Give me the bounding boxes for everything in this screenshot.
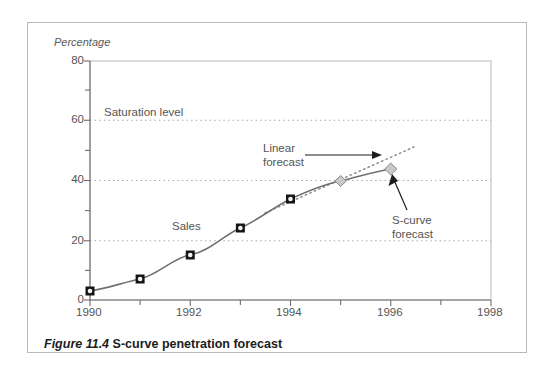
- marker-1995: [335, 176, 346, 187]
- marker-1990: [86, 287, 95, 296]
- y-tick-label-80: 80: [58, 54, 84, 66]
- linear-forecast-arrow-head: [372, 151, 382, 159]
- annotation-saturation-level: Saturation level: [104, 105, 183, 119]
- x-tick-label-1990: 1990: [76, 306, 102, 318]
- scurve-forecast-arrow-shaft: [394, 180, 407, 210]
- x-tick-label-1994: 1994: [276, 306, 302, 318]
- y-axis: [84, 61, 90, 300]
- data-markers-actual: [86, 195, 296, 296]
- x-tick-label-1998: 1998: [477, 306, 503, 318]
- marker-1993: [236, 224, 245, 233]
- annotation-linear-forecast-line2: forecast: [263, 155, 304, 169]
- figure-caption-text: S-curve penetration forecast: [113, 337, 283, 351]
- marker-1996: [385, 163, 397, 175]
- annotation-sales: Sales: [172, 219, 201, 233]
- y-tick-label-20: 20: [58, 234, 84, 246]
- figure-caption-number: Figure 11.4: [44, 337, 109, 351]
- y-tick-label-60: 60: [58, 113, 84, 125]
- y-tick-label-0: 0: [58, 293, 84, 305]
- marker-1991: [136, 275, 145, 284]
- annotation-scurve-forecast-line1: S-curve: [392, 213, 432, 227]
- marker-1994: [286, 195, 295, 204]
- x-tick-label-1996: 1996: [377, 306, 403, 318]
- x-tick-label-1992: 1992: [176, 306, 202, 318]
- scurve-forecast-arrow-head: [389, 174, 399, 186]
- y-tick-label-40: 40: [58, 173, 84, 185]
- figure-caption: Figure 11.4 S-curve penetration forecast: [44, 337, 282, 351]
- annotation-scurve-forecast-line2: forecast: [392, 227, 433, 241]
- caption-divider: [28, 352, 526, 353]
- annotation-linear-forecast-line1: Linear: [263, 141, 295, 155]
- marker-1992: [186, 251, 195, 260]
- y-axis-title: Percentage: [54, 36, 110, 48]
